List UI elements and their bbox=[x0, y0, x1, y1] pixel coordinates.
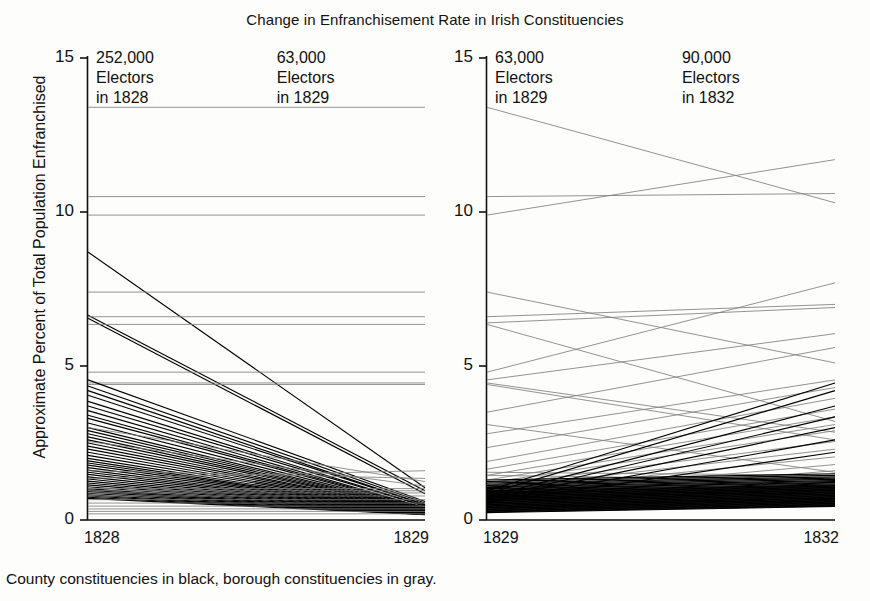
chart-caption: County constituencies in black, borough … bbox=[6, 570, 437, 588]
y-tick-label: 5 bbox=[40, 355, 74, 375]
y-tick-label: 10 bbox=[439, 201, 473, 221]
x-tick-label-end: 1829 bbox=[393, 529, 429, 547]
electors-annotation-start: 63,000 Electors in 1829 bbox=[495, 48, 553, 108]
slope-line-county bbox=[88, 252, 425, 488]
panel-axis-1 bbox=[487, 56, 836, 520]
electors-annotation-end: 63,000 Electors in 1829 bbox=[277, 48, 335, 108]
x-tick-label-start: 1828 bbox=[84, 529, 120, 547]
slope-line-borough bbox=[487, 160, 835, 215]
slope-line-borough bbox=[487, 107, 835, 202]
slope-line-borough bbox=[487, 348, 835, 413]
y-tick-label: 15 bbox=[40, 47, 74, 67]
y-tick-label: 0 bbox=[40, 509, 74, 529]
slope-line-borough bbox=[487, 283, 835, 372]
slope-line-county bbox=[88, 315, 425, 491]
y-tick-label: 0 bbox=[439, 509, 473, 529]
x-tick-label-start: 1829 bbox=[483, 529, 519, 547]
slope-line-borough bbox=[487, 194, 835, 197]
x-tick-label-end: 1832 bbox=[803, 529, 839, 547]
slope-line-county bbox=[88, 318, 425, 494]
y-tick-label: 10 bbox=[40, 201, 74, 221]
electors-annotation-end: 90,000 Electors in 1832 bbox=[682, 48, 740, 108]
y-tick-label: 5 bbox=[439, 355, 473, 375]
y-tick-label: 15 bbox=[439, 47, 473, 67]
chart-root: Change in Enfranchisement Rate in Irish … bbox=[0, 0, 870, 601]
electors-annotation-start: 252,000 Electors in 1828 bbox=[96, 48, 154, 108]
